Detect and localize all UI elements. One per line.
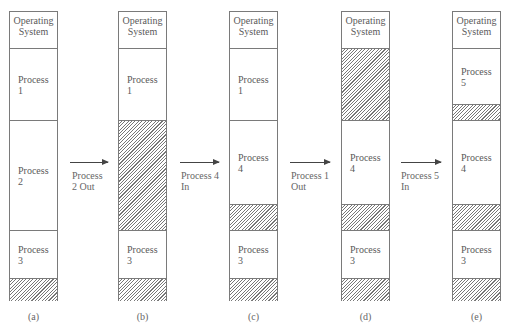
segment-label: Process 3: [127, 244, 158, 266]
free-memory-hatch: [230, 204, 277, 230]
process-segment: Process 4: [230, 120, 277, 204]
segment-label: Operating System: [230, 15, 277, 37]
free-memory-hatch: [342, 278, 389, 301]
process-segment: Process 4: [453, 120, 500, 204]
segment-label: Process 4: [350, 152, 381, 174]
free-memory-hatch: [453, 278, 500, 301]
caption-e: (e): [452, 311, 501, 322]
os-segment: Operating System: [230, 12, 277, 49]
arrow-icon: [180, 162, 219, 163]
transition-label-4: Process 5 In: [401, 170, 439, 192]
process-segment: Process 3: [119, 230, 166, 278]
transition-label-1: Process 2 Out: [72, 170, 103, 192]
segment-label: Process 3: [18, 244, 49, 266]
caption-d: (d): [341, 311, 390, 322]
segment-label: Operating System: [453, 15, 500, 37]
segment-label: Process 3: [350, 244, 381, 266]
segment-label: Process 1: [127, 74, 158, 96]
memory-column-d: Operating SystemProcess 4Process 3: [341, 11, 390, 301]
os-segment: Operating System: [119, 12, 166, 49]
process-segment: Process 5: [453, 48, 500, 104]
segment-label: Process 1: [238, 74, 269, 96]
segment-label: Operating System: [119, 15, 166, 37]
memory-column-a: Operating SystemProcess 1Process 2Proces…: [9, 11, 58, 301]
process-segment: Process 3: [230, 230, 277, 278]
segment-label: Operating System: [10, 15, 57, 37]
free-memory-hatch: [119, 120, 166, 230]
free-memory-hatch: [453, 204, 500, 230]
caption-a: (a): [9, 311, 58, 322]
os-segment: Operating System: [342, 12, 389, 49]
transition-label-3: Process 1 Out: [291, 170, 329, 192]
segment-label: Operating System: [342, 15, 389, 37]
arrow-icon: [401, 162, 441, 163]
os-segment: Operating System: [453, 12, 500, 49]
free-memory-hatch: [342, 48, 389, 120]
segment-label: Process 5: [461, 66, 492, 88]
free-memory-hatch: [10, 278, 57, 301]
transition-label-2: Process 4 In: [181, 170, 219, 192]
memory-column-e: Operating SystemProcess 5Process 4Proces…: [452, 11, 501, 301]
free-memory-hatch: [119, 278, 166, 301]
process-segment: Process 1: [230, 48, 277, 120]
segment-label: Process 4: [461, 152, 492, 174]
memory-column-b: Operating SystemProcess 1Process 3: [118, 11, 167, 301]
process-segment: Process 2: [10, 120, 57, 230]
caption-c: (c): [229, 311, 278, 322]
segment-label: Process 2: [18, 165, 49, 187]
process-segment: Process 1: [10, 48, 57, 120]
arrow-icon: [70, 162, 108, 163]
free-memory-hatch: [342, 204, 389, 230]
free-memory-hatch: [453, 104, 500, 120]
segment-label: Process 3: [461, 244, 492, 266]
memory-column-c: Operating SystemProcess 1Process 4Proces…: [229, 11, 278, 301]
process-segment: Process 3: [10, 230, 57, 278]
process-segment: Process 3: [453, 230, 500, 278]
segment-label: Process 1: [18, 74, 49, 96]
os-segment: Operating System: [10, 12, 57, 49]
process-segment: Process 1: [119, 48, 166, 120]
segment-label: Process 3: [238, 244, 269, 266]
arrow-icon: [290, 162, 330, 163]
process-segment: Process 4: [342, 120, 389, 204]
free-memory-hatch: [230, 278, 277, 301]
process-segment: Process 3: [342, 230, 389, 278]
caption-b: (b): [118, 311, 167, 322]
segment-label: Process 4: [238, 152, 269, 174]
